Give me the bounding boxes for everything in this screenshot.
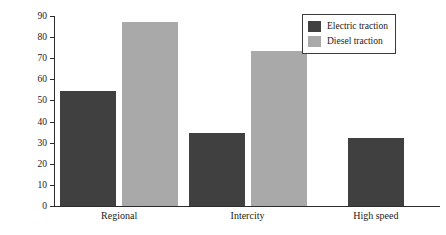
legend-label-electric: Electric traction <box>327 21 388 32</box>
x-axis-label-high-speed: High speed <box>326 210 426 222</box>
x-axis-line <box>54 206 440 207</box>
y-axis-tick-mark <box>50 37 54 38</box>
x-axis-label-intercity: Intercity <box>198 210 298 222</box>
legend-swatch-icon-diesel <box>308 36 321 47</box>
legend: Electric traction Diesel traction <box>302 14 396 54</box>
y-axis-tick-mark <box>50 164 54 165</box>
x-axis-label-regional: Regional <box>69 210 169 222</box>
y-axis-tick-mark <box>50 16 54 17</box>
y-axis-tick-label: 90 <box>7 11 47 21</box>
bar-electric-traction-intercity <box>189 133 245 206</box>
legend-item-electric: Electric traction <box>308 19 388 34</box>
y-axis-tick-mark <box>50 122 54 123</box>
bar-chart: gr CO2/ pkm 0102030405060708090 Regional… <box>0 0 446 235</box>
y-axis-tick-label: 10 <box>7 180 47 190</box>
y-axis-tick-label: 20 <box>7 159 47 169</box>
y-axis-tick-label: 40 <box>7 117 47 127</box>
y-axis-tick-mark <box>50 79 54 80</box>
y-axis-tick-label: 50 <box>7 95 47 105</box>
bar-electric-traction-high-speed <box>348 138 404 206</box>
y-axis-tick-label: 70 <box>7 53 47 63</box>
legend-swatch-icon-electric <box>308 21 321 32</box>
bar-diesel-traction-regional <box>122 22 178 206</box>
bar-diesel-traction-intercity <box>251 51 307 206</box>
y-axis-tick-label: 80 <box>7 32 47 42</box>
bar-electric-traction-regional <box>60 91 116 206</box>
y-axis-tick-label: 30 <box>7 138 47 148</box>
y-axis-tick-mark <box>50 185 54 186</box>
legend-label-diesel: Diesel traction <box>327 36 383 47</box>
y-axis-tick-mark <box>50 100 54 101</box>
y-axis-tick-label: 0 <box>7 201 47 211</box>
y-axis-tick-label: 60 <box>7 74 47 84</box>
y-axis-tick-mark <box>50 143 54 144</box>
legend-item-diesel: Diesel traction <box>308 34 388 49</box>
y-axis-tick-mark <box>50 206 54 207</box>
y-axis-tick-mark <box>50 58 54 59</box>
